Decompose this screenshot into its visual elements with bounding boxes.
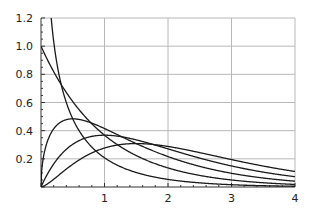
y-tick-label: 1.2 xyxy=(16,12,34,25)
x-tick-label: 1 xyxy=(101,192,108,205)
x-tick-label: 3 xyxy=(228,192,235,205)
y-tick-label: 0.4 xyxy=(16,125,34,138)
y-tick-label: 1.0 xyxy=(16,40,34,53)
y-tick-label: 0.8 xyxy=(16,68,34,81)
x-tick-label: 4 xyxy=(292,192,299,205)
grid-lines xyxy=(41,18,295,187)
y-tick-label: 0.6 xyxy=(16,97,34,110)
y-tick-label: 0.2 xyxy=(16,153,34,166)
x-tick-label: 2 xyxy=(165,192,172,205)
gamma-density-chart: 12340.20.40.60.81.01.2 xyxy=(0,0,315,210)
